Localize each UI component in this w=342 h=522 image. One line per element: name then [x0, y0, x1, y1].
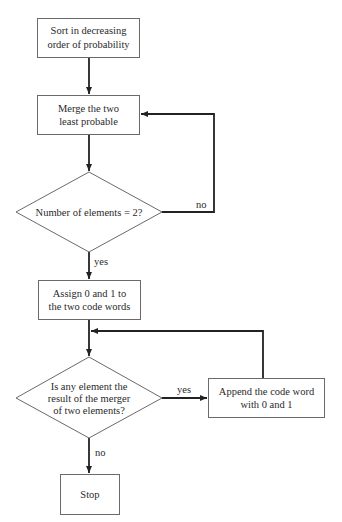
node-text: result of the merger [48, 393, 131, 404]
node-text: Sort in decreasing [51, 25, 128, 36]
node-check-merged: Is any element the result of the merger … [16, 357, 162, 438]
node-text: with 0 and 1 [240, 399, 292, 410]
node-text: Assign 0 and 1 to [53, 288, 127, 299]
node-text: Number of elements = 2? [36, 207, 143, 218]
node-text: Append the code word [219, 386, 315, 397]
edge-label-yes: yes [177, 384, 191, 395]
node-sort: Sort in decreasing order of probability [38, 19, 140, 58]
node-text: least probable [59, 116, 118, 127]
edge-check-count-no-to-merge [141, 114, 214, 212]
edge-label-no: no [196, 199, 207, 210]
edge-append-to-check-merged [91, 331, 263, 378]
node-text: Stop [80, 489, 99, 500]
node-text: Is any element the [51, 381, 128, 392]
edge-label-yes: yes [94, 256, 108, 267]
node-text: the two code words [49, 301, 131, 312]
node-append: Append the code word with 0 and 1 [209, 379, 325, 418]
node-text: Merge the two [58, 103, 119, 114]
node-text: order of probability [47, 39, 130, 50]
node-text: of two elements? [53, 405, 125, 416]
node-assign: Assign 0 and 1 to the two code words [39, 281, 141, 320]
node-stop: Stop [61, 475, 120, 515]
flowchart: no yes yes no Sort in decreasing order o… [0, 0, 342, 522]
node-merge: Merge the two least probable [38, 96, 140, 135]
node-check-count: Number of elements = 2? [16, 172, 162, 252]
edge-label-no: no [95, 447, 106, 458]
